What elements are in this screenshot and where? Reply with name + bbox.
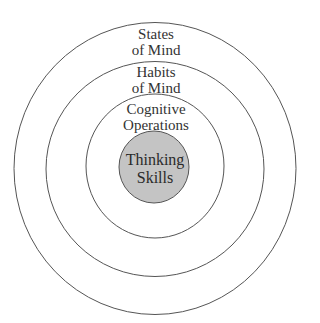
label-line: of Mind <box>132 80 181 96</box>
label-states-of-mind: States of Mind <box>132 26 181 58</box>
label-cognitive-operations: Cognitive Operations <box>123 101 189 133</box>
label-line: States <box>132 26 181 42</box>
label-line: Thinking <box>126 151 185 169</box>
label-habits-of-mind: Habits of Mind <box>132 64 181 96</box>
label-thinking-skills: Thinking Skills <box>126 151 185 187</box>
label-line: Cognitive <box>123 101 189 117</box>
label-line: Operations <box>123 117 189 133</box>
label-line: of Mind <box>132 42 181 58</box>
label-line: Habits <box>132 64 181 80</box>
label-line: Skills <box>126 169 185 187</box>
